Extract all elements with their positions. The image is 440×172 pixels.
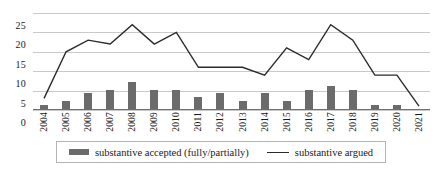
legend-label-substantive-accepted: substantive accepted (fully/partially) (95, 147, 249, 158)
x-axis-tick-2005: 2005 (61, 112, 71, 132)
x-axis-tick-2021: 2021 (414, 112, 424, 132)
x-axis-tick-2004: 2004 (39, 112, 49, 132)
legend-item-substantive-accepted: substantive accepted (fully/partially) (69, 147, 249, 158)
x-axis-tick-2011: 2011 (193, 112, 203, 131)
x-axis-tick-2013: 2013 (238, 112, 248, 132)
line-series-substantive-argued (33, 13, 430, 110)
y-axis-tick-20: 20 (16, 40, 26, 50)
y-axis-tick-5: 5 (21, 99, 26, 109)
y-axis-tick-15: 15 (16, 60, 26, 70)
y-axis-tick-10: 10 (16, 79, 26, 89)
x-axis-tick-2006: 2006 (83, 112, 93, 132)
x-axis-labels: 2004200520062007200820092010201120122013… (33, 112, 430, 144)
x-axis-tick-2008: 2008 (127, 112, 137, 132)
x-axis-tick-2016: 2016 (304, 112, 314, 132)
x-axis-tick-2007: 2007 (105, 112, 115, 132)
x-axis-tick-2015: 2015 (282, 112, 292, 132)
y-axis-tick-25: 25 (16, 21, 26, 31)
x-axis-tick-2009: 2009 (149, 112, 159, 132)
legend-label-substantive-argued: substantive argued (295, 147, 373, 158)
x-axis-tick-2020: 2020 (392, 112, 402, 132)
y-axis-tick-0: 0 (21, 118, 26, 128)
legend-bar-swatch-icon (69, 149, 89, 155)
x-axis-tick-2018: 2018 (348, 112, 358, 132)
x-axis-tick-2010: 2010 (171, 112, 181, 132)
x-axis-tick-2014: 2014 (260, 112, 270, 132)
x-axis-tick-2019: 2019 (370, 112, 380, 132)
legend-item-substantive-argued: substantive argued (267, 147, 373, 158)
x-axis-tick-2012: 2012 (215, 112, 225, 132)
chart-legend: substantive accepted (fully/partially) s… (56, 141, 386, 163)
legend-line-swatch-icon (267, 152, 289, 153)
plot-area (33, 13, 430, 110)
chart-container: 0510152025 20042005200620072008200920102… (0, 0, 440, 172)
x-axis-tick-2017: 2017 (326, 112, 336, 132)
y-axis-labels: 0510152025 (0, 13, 30, 110)
